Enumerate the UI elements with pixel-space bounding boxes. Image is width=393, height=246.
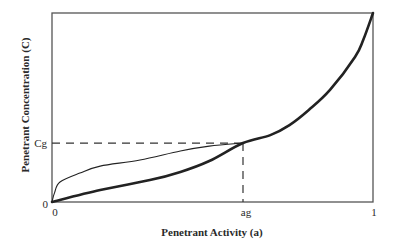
x-tick-label-1: ag: [241, 206, 252, 218]
y-tick-label-1: Cg: [34, 137, 47, 149]
plot-frame: [52, 13, 373, 202]
y-tick-label-0: 0: [43, 198, 49, 210]
x-axis-title: Penetrant Activity (a): [161, 226, 263, 239]
convex-isotherm-line: [52, 13, 373, 202]
isotherm-chart: 0ag10Cg Penetrant Activity (a) Penetrant…: [0, 0, 393, 246]
x-tick-label-2: 1: [371, 206, 377, 218]
concave-isotherm-line: [52, 143, 243, 202]
x-tick-label-0: 0: [52, 206, 58, 218]
y-axis-title: Penetrant Concentration (C): [19, 37, 32, 172]
